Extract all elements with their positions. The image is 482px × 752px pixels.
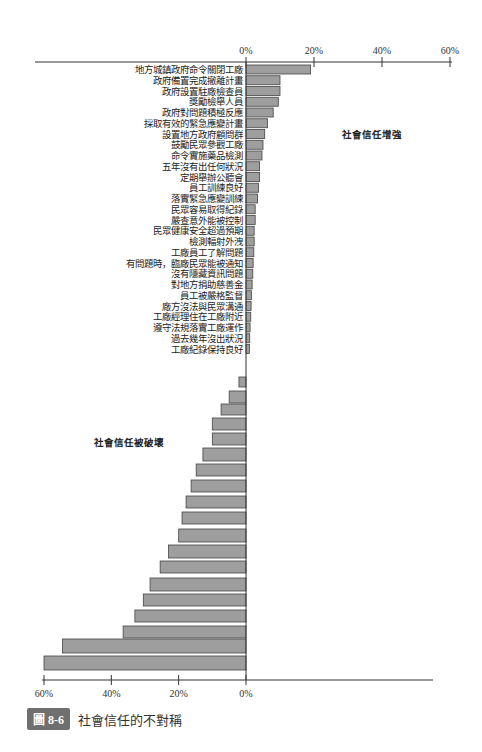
bar-negative: [135, 610, 246, 622]
bar-positive: [246, 97, 278, 106]
bar-positive: [246, 119, 267, 128]
bar-negative: [63, 639, 246, 653]
category-label: 落實緊急應變訓練: [171, 193, 243, 204]
bottom-axis-tick-label: 60%: [35, 688, 53, 699]
bar-negative: [169, 545, 246, 558]
category-label: 定期舉辦公聽會: [180, 172, 244, 183]
bar-negative: [179, 529, 246, 542]
category-label: 廠方沒法與民眾溝通: [162, 301, 244, 312]
bar-positive: [246, 76, 280, 85]
top-axis-tick-label: 20%: [305, 45, 323, 56]
bar-positive: [246, 65, 311, 74]
category-label: 政府設置駐廠檢查員: [162, 86, 243, 97]
category-label: 遵守法規落實工廠運作: [153, 322, 243, 333]
category-label: 命令實施藥品檢測: [171, 150, 243, 161]
category-label: 嚴查意外能被控制: [171, 215, 243, 226]
bar-positive: [246, 312, 251, 321]
bar-positive: [246, 259, 253, 268]
category-label: 對地方捐助慈善金: [171, 279, 244, 290]
category-label: 五年沒有出任何狀況: [162, 161, 244, 172]
bar-negative: [123, 626, 246, 638]
bar-negative: [203, 448, 246, 461]
category-label: 設置地方政府顧問群: [162, 129, 244, 140]
figure-number-badge: 圖 8-6: [27, 708, 70, 730]
bar-positive: [246, 151, 262, 160]
category-label: 政府備置完成撤離計畫: [153, 75, 243, 86]
bar-negative: [186, 496, 246, 508]
bar-positive: [246, 140, 263, 149]
bar-negative: [191, 480, 246, 492]
bar-positive: [246, 108, 273, 117]
bottom-axis-tick-label: 20%: [169, 688, 187, 699]
bar-positive: [246, 291, 251, 300]
category-label: 沒有隱藏資訊問題: [171, 268, 244, 279]
bar-positive: [246, 302, 251, 311]
bar-positive: [246, 280, 252, 289]
bar-positive: [246, 269, 253, 278]
category-label: 工廠紀錄保持良好: [171, 344, 243, 355]
category-label: 民眾健康安全超過預期: [153, 225, 243, 236]
bar-positive: [246, 248, 254, 257]
figure-caption: 圖 8-6 社會信任的不對稱: [27, 708, 182, 730]
bottom-axis-tick-label: 0%: [239, 688, 252, 699]
category-label: 政府對問題積極反應: [162, 107, 243, 118]
category-label: 鼓勵民眾參觀工廠: [171, 139, 244, 150]
asymmetry-bar-chart: 0%20%40%60%地方城鎮政府命令關閉工廠政府備置完成撤離計畫政府設置駐廠檢…: [0, 0, 482, 752]
top-axis-tick-label: 60%: [441, 45, 459, 56]
category-label: 獎勵檢舉人員: [189, 96, 243, 107]
category-label: 員工訓練良好: [189, 182, 243, 193]
bar-negative: [143, 594, 246, 606]
category-label: 民眾容易取得紀錄: [171, 204, 244, 215]
bar-negative: [182, 512, 246, 524]
bar-negative: [239, 377, 246, 387]
bar-positive: [246, 237, 254, 246]
category-label: 工廠經理住在工廠附近: [153, 311, 244, 322]
category-label: 採取有效的緊急應變計畫: [144, 118, 243, 129]
bar-negative: [212, 433, 246, 445]
category-label: 地方城鎮政府命令關閉工廠: [135, 64, 244, 75]
top-axis-tick-label: 0%: [239, 45, 252, 56]
category-label: 檢測輻射外洩: [189, 236, 244, 247]
bar-negative: [150, 578, 246, 591]
bar-positive: [246, 194, 258, 203]
bar-negative: [221, 404, 246, 415]
annotation-trust-increase: 社會信任增強: [341, 129, 402, 140]
bar-positive: [246, 183, 259, 192]
bar-negative: [212, 418, 246, 430]
bar-positive: [246, 216, 255, 225]
bar-positive: [246, 162, 260, 171]
bar-positive: [246, 323, 250, 332]
bar-positive: [246, 345, 249, 354]
figure-title: 社會信任的不對稱: [78, 710, 182, 729]
category-label: 工廠員工了解問題: [171, 247, 244, 258]
bar-positive: [246, 173, 260, 182]
bottom-axis-tick-label: 40%: [102, 688, 120, 699]
bar-positive: [246, 334, 250, 343]
category-label: 員工被嚴格監督: [180, 290, 243, 301]
bar-positive: [246, 205, 255, 214]
bar-negative: [196, 464, 246, 476]
bar-negative: [229, 391, 246, 403]
category-label: 有問題時，臨廠民眾能被通知: [126, 258, 243, 269]
bar-positive: [246, 226, 254, 235]
annotation-trust-destroyed: 社會信任被破壞: [93, 437, 164, 448]
top-axis-tick-label: 40%: [373, 45, 391, 56]
bar-negative: [44, 656, 246, 670]
bar-positive: [246, 130, 265, 139]
bar-positive: [246, 87, 280, 96]
bar-negative: [160, 561, 246, 573]
category-label: 過去幾年沒出狀況: [171, 333, 244, 344]
